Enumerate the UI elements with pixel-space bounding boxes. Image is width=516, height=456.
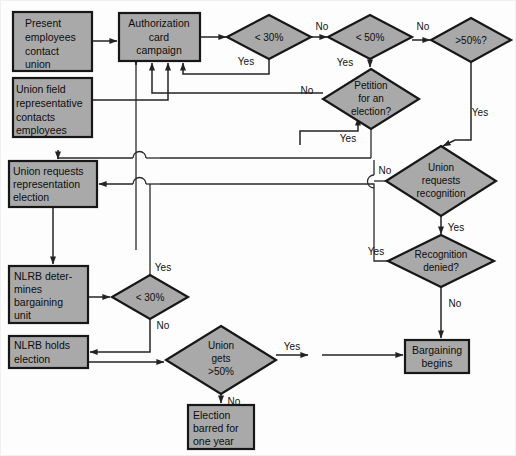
box-line: bargaining bbox=[14, 296, 63, 308]
diamond-line: requests bbox=[422, 175, 460, 186]
box-line: Present bbox=[25, 17, 61, 29]
edge-label-yes-30-return: Yes bbox=[238, 56, 254, 67]
box-line: Bargaining bbox=[412, 344, 462, 356]
process-box-nlrb-determines-bargaining-unit[interactable]: NLRB deter- mines bargaining unit bbox=[9, 266, 88, 323]
diamond-line: Union bbox=[428, 162, 454, 173]
process-box-election-barred[interactable]: Election barred for one year bbox=[188, 405, 254, 449]
edge-label-yes-recognition: Yes bbox=[448, 222, 464, 233]
diamond-line: gets bbox=[212, 353, 231, 364]
edge-label-no-to-petition: No bbox=[301, 85, 314, 96]
edge-petition-no-to-auth bbox=[152, 63, 323, 93]
edge-label-yes-petition-down: Yes bbox=[340, 133, 356, 144]
box-line: Election bbox=[193, 409, 231, 421]
box-line: Union requests bbox=[13, 165, 84, 177]
diamond-line: < 50% bbox=[356, 32, 385, 43]
box-line: Union field bbox=[16, 83, 66, 95]
decision-under-50[interactable]: < 50% bbox=[328, 15, 412, 59]
box-line: unit bbox=[14, 309, 31, 321]
box-line: card bbox=[149, 31, 170, 43]
box-line: contact bbox=[25, 45, 59, 57]
edge-recognition-no-left bbox=[160, 184, 374, 188]
diamond-line: >50% bbox=[208, 366, 234, 377]
edge-fieldrep-to-auth bbox=[92, 63, 168, 100]
edge-label-no-denied-down: No bbox=[449, 298, 462, 309]
box-line: Authorization bbox=[128, 17, 189, 29]
hop-arc-lower bbox=[133, 178, 146, 185]
flowchart-canvas: Present employees contact union Union fi… bbox=[0, 0, 516, 456]
edge-label-no-union-gets: No bbox=[228, 396, 241, 407]
decision-union-requests-recognition[interactable]: Union requests recognition bbox=[386, 146, 496, 216]
edge-label-yes-over50-down: Yes bbox=[472, 107, 488, 118]
box-line: representation bbox=[13, 178, 80, 190]
diamond-line: Petition bbox=[354, 80, 387, 91]
edge-label-yes-denied-left: Yes bbox=[368, 246, 384, 257]
edge-label-yes-30-lower: Yes bbox=[155, 262, 171, 273]
edge-under30-lower-no-to-nlrb-holds bbox=[90, 319, 150, 352]
box-line: election bbox=[14, 353, 50, 365]
decision-under-30-lower[interactable]: < 30% bbox=[112, 275, 188, 319]
edge-over50-yes-to-recognition bbox=[443, 62, 471, 146]
hop-arc-upper bbox=[133, 152, 146, 159]
box-line: NLRB holds bbox=[14, 339, 70, 351]
diamond-line: Recognition bbox=[415, 249, 468, 260]
box-line: representative bbox=[16, 97, 83, 109]
decision-under-30-top[interactable]: < 30% bbox=[227, 15, 311, 59]
decision-recognition-denied[interactable]: Recognition denied? bbox=[388, 235, 494, 287]
box-line: campaign bbox=[136, 44, 182, 56]
flowchart-page: Present employees contact union Union fi… bbox=[0, 0, 516, 456]
hop-arc-recognition-no bbox=[368, 175, 375, 188]
process-box-present-employees[interactable]: Present employees contact union bbox=[13, 12, 92, 71]
edge-label-no-50-to-over50: No bbox=[417, 21, 430, 32]
diamond-line: < 30% bbox=[255, 32, 284, 43]
diamond-line: recognition bbox=[417, 188, 466, 199]
diamond-line: Union bbox=[208, 340, 234, 351]
box-line: union bbox=[25, 58, 51, 70]
diamond-line: < 30% bbox=[136, 292, 165, 303]
process-box-nlrb-holds-election[interactable]: NLRB holds election bbox=[9, 336, 88, 368]
diamond-line: >50%? bbox=[455, 35, 487, 46]
edge-label-no-30-to-50: No bbox=[316, 21, 329, 32]
diamond-line: for an bbox=[358, 93, 384, 104]
box-line: contacts bbox=[16, 111, 55, 123]
decision-over-50-question[interactable]: >50%? bbox=[431, 18, 511, 62]
diamond-line: election? bbox=[351, 106, 391, 117]
process-box-union-requests-representation-election[interactable]: Union requests representation election bbox=[9, 161, 97, 207]
process-box-bargaining-begins[interactable]: Bargaining begins bbox=[405, 340, 469, 373]
edge-label-no-recognition: No bbox=[379, 165, 392, 176]
box-line: barred for bbox=[193, 422, 239, 434]
process-box-union-field-rep[interactable]: Union field representative contacts empl… bbox=[13, 78, 92, 137]
decision-union-gets-over-50[interactable]: Union gets >50% bbox=[166, 326, 276, 394]
edge-label-yes-union-gets: Yes bbox=[284, 341, 300, 352]
decision-petition-for-election[interactable]: Petition for an election? bbox=[323, 69, 419, 129]
box-line: election bbox=[13, 191, 49, 203]
edge-label-yes-50-to-petition: Yes bbox=[337, 57, 353, 68]
box-line: employees bbox=[25, 31, 76, 43]
box-line: begins bbox=[422, 357, 453, 369]
box-line: NLRB deter- bbox=[14, 270, 73, 282]
edge-label-no-30-lower: No bbox=[157, 320, 170, 331]
box-line: mines bbox=[14, 283, 42, 295]
box-line: one year bbox=[193, 435, 234, 447]
edge-petition-yes-left-3 bbox=[58, 158, 133, 159]
box-line: employees bbox=[16, 124, 67, 136]
process-box-authorization-card-campaign[interactable]: Authorization card campaign bbox=[119, 13, 200, 61]
diamond-line: denied? bbox=[423, 262, 459, 273]
